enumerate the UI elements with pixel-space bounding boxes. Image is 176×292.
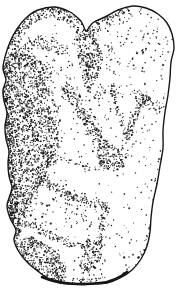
scanned-illustration-page	[0, 0, 176, 292]
figurine-stipple-drawing	[0, 0, 176, 292]
